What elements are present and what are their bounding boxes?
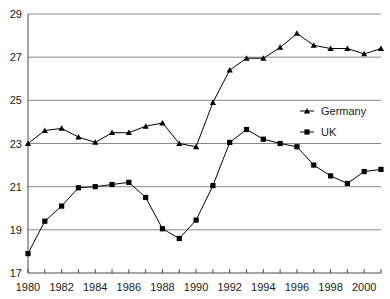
data-point-marker [160, 226, 165, 231]
line-chart: 17192123252729 1980198219841986198819901… [0, 0, 390, 299]
data-point-marker [294, 144, 299, 149]
data-point-marker [244, 127, 249, 132]
data-point-marker [42, 219, 47, 224]
y-tick-label: 27 [10, 51, 22, 63]
gridlines [28, 14, 381, 230]
y-tick-label: 25 [10, 94, 22, 106]
data-point-marker [93, 184, 98, 189]
x-tick-label: 1990 [184, 281, 208, 293]
legend-marker-uk [304, 129, 309, 134]
data-point-marker [345, 181, 350, 186]
x-axis-tick-labels: 1980198219841986198819901992199419961998… [16, 281, 377, 293]
x-tick-label: 1994 [251, 281, 275, 293]
y-tick-label: 21 [10, 181, 22, 193]
data-point-marker [227, 67, 233, 73]
y-tick-label: 19 [10, 224, 22, 236]
data-point-marker [362, 169, 367, 174]
legend-label-uk: UK [321, 126, 337, 138]
data-point-marker [193, 218, 198, 223]
data-point-marker [59, 125, 65, 131]
y-tick-label: 29 [10, 8, 22, 20]
data-point-marker [143, 195, 148, 200]
data-point-marker [294, 30, 300, 36]
x-tick-label: 1998 [318, 281, 342, 293]
x-tick-label: 1984 [83, 281, 107, 293]
data-point-marker [177, 236, 182, 241]
data-point-marker [378, 167, 383, 172]
y-tick-label: 17 [10, 267, 22, 279]
x-axis-ticks [28, 269, 381, 273]
legend-label-germany: Germany [321, 105, 367, 117]
chart-legend: GermanyUK [300, 105, 367, 138]
x-tick-label: 2000 [352, 281, 376, 293]
series-line [28, 129, 381, 253]
data-point-marker [227, 140, 232, 145]
x-tick-label: 1982 [49, 281, 73, 293]
data-point-marker [109, 182, 114, 187]
data-point-marker [25, 251, 30, 256]
data-point-marker [261, 137, 266, 142]
x-tick-label: 1996 [285, 281, 309, 293]
data-point-marker [378, 45, 384, 51]
data-point-marker [126, 180, 131, 185]
x-tick-label: 1992 [217, 281, 241, 293]
data-point-marker [278, 141, 283, 146]
data-point-marker [328, 173, 333, 178]
x-tick-label: 1980 [16, 281, 40, 293]
data-point-marker [311, 162, 316, 167]
chart-container: 17192123252729 1980198219841986198819901… [0, 0, 390, 299]
data-point-marker [76, 185, 81, 190]
x-tick-label: 1986 [117, 281, 141, 293]
data-point-marker [210, 183, 215, 188]
data-point-marker [75, 134, 81, 140]
x-tick-label: 1988 [150, 281, 174, 293]
data-point-marker [311, 42, 317, 48]
series-uk [25, 127, 383, 256]
y-tick-label: 23 [10, 138, 22, 150]
data-point-marker [159, 120, 165, 126]
y-axis-tick-labels: 17192123252729 [10, 8, 22, 279]
data-point-marker [59, 203, 64, 208]
